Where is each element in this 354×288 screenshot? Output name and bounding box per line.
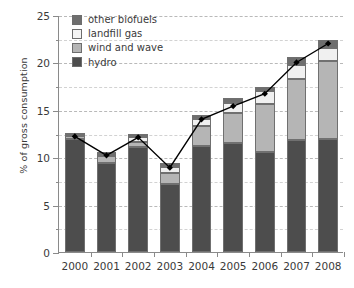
x-tick-label-2005: 2005	[220, 260, 247, 272]
y-axis-title: % of gross consumption	[18, 31, 29, 201]
trend-marker-2001	[103, 152, 109, 158]
trend-marker-2008	[325, 40, 331, 46]
x-tick	[122, 252, 123, 257]
legend-swatch-icon	[72, 43, 82, 53]
y-tick-minor	[56, 40, 60, 41]
x-tick-label-2004: 2004	[188, 260, 215, 272]
x-tick-label-2002: 2002	[125, 260, 152, 272]
trend-marker-2005	[230, 103, 236, 109]
legend-swatch-icon	[72, 15, 82, 25]
chart-container: % of gross consumption 0510152025 200020…	[0, 0, 354, 288]
y-tick-label: 20	[37, 57, 50, 69]
y-tick	[53, 111, 59, 112]
y-tick-label: 5	[43, 200, 50, 212]
y-tick-minor	[56, 87, 60, 88]
x-tick-label-2001: 2001	[93, 260, 120, 272]
legend-swatch-icon	[72, 29, 82, 39]
chart-legend: other biofuelslandfill gaswind and waveh…	[72, 14, 163, 68]
x-tick	[249, 252, 250, 257]
y-tick	[53, 253, 59, 254]
legend-label: hydro	[88, 57, 117, 68]
y-tick-minor	[56, 135, 60, 136]
y-tick	[53, 206, 59, 207]
y-tick	[53, 16, 59, 17]
legend-label: landfill gas	[88, 28, 142, 39]
x-tick	[344, 252, 345, 257]
y-tick	[53, 158, 59, 159]
y-tick-label: 15	[37, 105, 50, 117]
trend-marker-2000	[72, 133, 78, 139]
x-tick	[281, 252, 282, 257]
legend-label: other biofuels	[88, 14, 157, 25]
x-tick	[186, 252, 187, 257]
y-tick	[53, 63, 59, 64]
legend-item-landfill-gas: landfill gas	[72, 28, 163, 39]
x-tick	[154, 252, 155, 257]
y-tick-minor	[56, 229, 60, 230]
x-tick-label-2008: 2008	[315, 260, 342, 272]
legend-swatch-icon	[72, 57, 82, 67]
y-tick-label: 10	[37, 152, 50, 164]
x-tick	[217, 252, 218, 257]
legend-item-wind-and-wave: wind and wave	[72, 42, 163, 53]
y-tick-label: 25	[37, 10, 50, 22]
y-tick-label: 0	[43, 247, 50, 259]
x-tick-label-2007: 2007	[283, 260, 310, 272]
legend-item-other-biofuels: other biofuels	[72, 14, 163, 25]
x-tick-label-2000: 2000	[61, 260, 88, 272]
legend-label: wind and wave	[88, 42, 163, 53]
y-tick-minor	[56, 182, 60, 183]
x-tick	[91, 252, 92, 257]
x-tick-label-2006: 2006	[251, 260, 278, 272]
x-tick	[312, 252, 313, 257]
legend-item-hydro: hydro	[72, 57, 163, 68]
x-tick-label-2003: 2003	[156, 260, 183, 272]
